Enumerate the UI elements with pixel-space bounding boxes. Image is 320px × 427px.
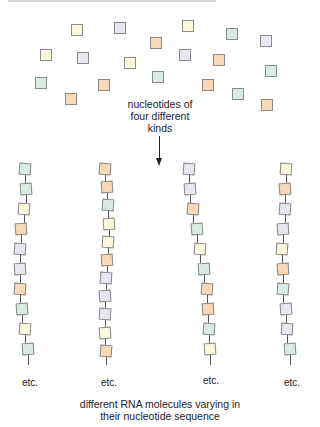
phosphate-link [283,235,284,243]
chain-4-nucleotide-green [284,343,297,356]
chain-3-nucleotide-orange [201,283,214,296]
arrow-down-icon [156,158,162,166]
phosphate-link [210,355,211,365]
caption-line-1: different RNA molecules varying in [60,398,260,410]
phosphate-link [189,175,190,183]
chain-1-etc: etc. [22,377,38,388]
chain-3-nucleotide-lav [183,163,196,176]
nucleotide-green [35,77,47,89]
chain-4-nucleotide-yellow [276,243,289,256]
phosphate-link [25,175,26,183]
chain-2-nucleotide-orange [99,163,112,176]
nucleotide-lav [77,52,89,64]
phosphate-link [193,215,194,223]
chain-2-nucleotide-lav [99,308,112,321]
nucleotide-yellow [71,24,83,36]
phosphate-link [207,295,208,303]
phosphate-link [105,320,106,326]
chain-1-nucleotide-green [19,163,32,176]
caption: different RNA molecules varying in their… [60,398,260,422]
nucleotide-orange [150,37,162,49]
arrow-shaft [159,136,160,160]
chain-3-nucleotide-yellow [194,243,207,256]
chain-3-nucleotide-lav [184,183,197,196]
chain-1-nucleotide-green [16,303,29,316]
nucleotide-orange [65,93,77,105]
top-rule [8,0,216,2]
nucleotide-yellow [124,57,136,69]
chain-4-nucleotide-yellow [280,163,293,176]
chain-3-nucleotide-yellow [204,343,217,356]
phosphate-link [108,211,109,217]
chain-1-nucleotide-orange [14,283,27,296]
chain-2-nucleotide-orange [100,344,113,357]
phosphate-link [286,315,287,323]
nucleotide-green [232,88,244,100]
nucleotide-lav [260,35,272,47]
nucleotide-orange [261,99,273,111]
nucleotide-yellow [40,49,52,61]
chain-4-etc: etc. [284,377,300,388]
label-line-3: kinds [110,122,210,134]
phosphate-link [290,355,291,365]
chain-1-nucleotide-green [22,343,35,356]
free-nucleotides-label: nucleotides of four different kinds [110,98,210,134]
chain-2-etc: etc. [101,377,117,388]
phosphate-link [283,295,284,303]
chain-1-nucleotide-yellow [18,203,31,216]
phosphate-link [105,339,106,345]
chain-3-nucleotide-orange [202,303,215,316]
chain-3-nucleotide-green [191,223,204,236]
phosphate-link [20,295,21,303]
phosphate-link [209,335,210,343]
chain-3-etc: etc. [203,375,219,386]
nucleotide-lav [179,49,191,61]
nucleotide-green [226,28,238,40]
chain-1-nucleotide-green [20,183,33,196]
nucleotide-green [152,71,164,83]
chain-2-nucleotide-lav [100,272,113,285]
phosphate-link [208,315,209,323]
phosphate-link [26,195,27,203]
chain-4-nucleotide-green [277,283,290,296]
chain-4-nucleotide-orange [279,183,292,196]
phosphate-link [106,357,107,365]
label-line-1: nucleotides of [110,98,210,110]
chain-2-nucleotide-yellow [103,217,116,230]
chain-2-nucleotide-yellow [102,235,115,248]
chain-2-nucleotide-orange [101,181,114,194]
phosphate-link [282,255,283,263]
phosphate-link [287,335,288,343]
nucleotide-yellow [182,20,194,32]
chain-2-nucleotide-green [102,199,115,212]
nucleotide-green [265,65,277,77]
phosphate-link [20,255,21,263]
chain-2-nucleotide-yellow [99,326,112,339]
chain-1-nucleotide-lav [14,243,27,256]
chain-4-nucleotide-orange [277,263,290,276]
chain-1-nucleotide-yellow [19,323,32,336]
chain-1-nucleotide-orange [15,223,28,236]
chain-2-nucleotide-orange [101,254,114,267]
chain-4-nucleotide-lav [279,203,292,216]
chain-4-nucleotide-lav [281,323,294,336]
chain-2-nucleotide-lav [99,290,112,303]
phosphate-link [200,255,201,263]
phosphate-link [20,275,21,283]
chain-3-nucleotide-orange [187,203,200,216]
nucleotide-lav [114,22,126,34]
phosphate-link [283,275,284,283]
nucleotide-orange [202,79,214,91]
label-line-2: four different [110,110,210,122]
nucleotide-orange [213,54,225,66]
nucleotide-orange [98,79,110,91]
phosphate-link [285,195,286,203]
chain-3-nucleotide-green [203,323,216,336]
chain-3-nucleotide-green [198,263,211,276]
phosphate-link [25,335,26,343]
phosphate-link [21,235,22,243]
phosphate-link [28,355,29,365]
chain-4-nucleotide-lav [277,223,290,236]
caption-line-2: their nucleotide sequence [60,410,260,422]
chain-1-nucleotide-lav [14,263,27,276]
